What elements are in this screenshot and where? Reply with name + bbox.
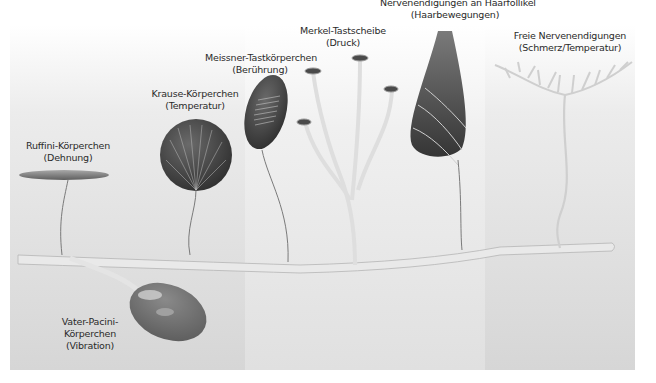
pacini-highlight bbox=[138, 290, 162, 300]
skin-receptor-diagram: Ruffini-Körperchen (Dehnung) Krause-Körp… bbox=[0, 0, 656, 383]
free-endings-name: Freie Nervenendigungen bbox=[510, 30, 630, 42]
pacini-name-line1: Vater-Pacini- bbox=[50, 316, 130, 328]
hair-follicle-name: Nervenendigungen an Haarfollikel bbox=[380, 0, 530, 9]
hair-follicle-function: (Haarbewegungen) bbox=[380, 9, 530, 21]
ruffini-name: Ruffini-Körperchen bbox=[18, 140, 118, 152]
pacini-core bbox=[156, 308, 174, 316]
ruffini-corpuscle bbox=[19, 170, 109, 180]
merkel-name: Merkel-Tastscheibe bbox=[298, 25, 388, 37]
label-hair-follicle: Nervenendigungen an Haarfollikel (Haarbe… bbox=[380, 0, 530, 21]
krause-function: (Temperatur) bbox=[145, 100, 245, 112]
label-ruffini: Ruffini-Körperchen (Dehnung) bbox=[18, 140, 118, 164]
meissner-name: Meissner-Tastkörperchen bbox=[205, 52, 315, 64]
krause-corpuscle bbox=[160, 119, 232, 191]
label-merkel: Merkel-Tastscheibe (Druck) bbox=[298, 25, 388, 49]
pacini-function: (Vibration) bbox=[50, 340, 130, 352]
label-vater-pacini: Vater-Pacini- Körperchen (Vibration) bbox=[50, 316, 130, 352]
label-krause: Krause-Körperchen (Temperatur) bbox=[145, 88, 245, 112]
merkel-function: (Druck) bbox=[298, 37, 388, 49]
ruffini-function: (Dehnung) bbox=[18, 152, 118, 164]
label-meissner: Meissner-Tastkörperchen (Berührung) bbox=[205, 52, 315, 76]
label-free-endings: Freie Nervenendigungen (Schmerz/Temperat… bbox=[510, 30, 630, 54]
krause-name: Krause-Körperchen bbox=[145, 88, 245, 100]
meissner-function: (Berührung) bbox=[205, 64, 315, 76]
free-endings-function: (Schmerz/Temperatur) bbox=[510, 42, 630, 54]
pacini-name-line2: Körperchen bbox=[50, 328, 130, 340]
